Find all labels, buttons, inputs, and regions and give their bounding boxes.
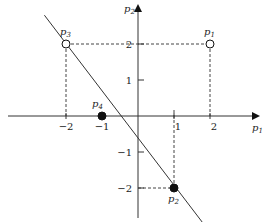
point-label-p3: p3 [60, 26, 71, 39]
point-p3 [62, 40, 70, 48]
point-label-p1: p1 [204, 26, 215, 39]
y-axis-label: p2 [124, 3, 135, 16]
x-axis-label: p1 [252, 122, 263, 135]
x-tick-label: 1 [175, 121, 181, 132]
point-p4 [98, 112, 106, 120]
point-label-p2: p2 [168, 193, 179, 206]
y-tick-label: −1 [117, 147, 132, 158]
point-label-p4: p4 [92, 98, 103, 111]
coordinate-diagram: −2−11221−1−2 p1p2p3p4 p1 p2 [0, 0, 266, 222]
x-tick-label: −2 [59, 121, 74, 132]
point-p1 [206, 40, 214, 48]
y-tick-label: 1 [126, 75, 132, 86]
x-tick-label: −1 [95, 121, 110, 132]
y-tick-label: 2 [126, 39, 132, 50]
y-tick-label: −2 [117, 183, 132, 194]
x-tick-label: 2 [211, 121, 217, 132]
point-p2 [170, 184, 178, 192]
